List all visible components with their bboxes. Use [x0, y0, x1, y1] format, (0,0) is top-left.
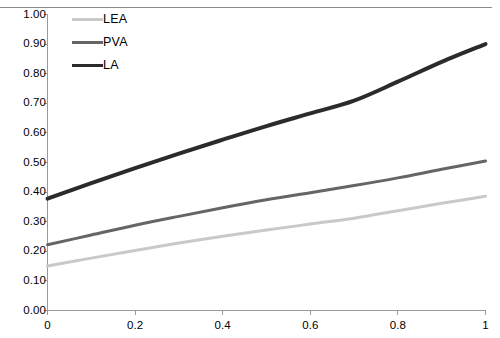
chart-figure: 0.000.100.200.300.400.500.600.700.800.90… — [0, 0, 500, 338]
legend-label-lea: LEA — [103, 13, 127, 26]
x-tick-label: 1 — [482, 320, 489, 332]
legend-label-la: LA — [103, 59, 119, 72]
chart-legend: LEA PVA LA — [72, 8, 212, 77]
legend-swatch-la — [72, 64, 103, 67]
legend-item-la: LA — [72, 54, 212, 77]
legend-swatch-pva — [72, 41, 103, 44]
legend-item-pva: PVA — [72, 31, 212, 54]
legend-swatch-lea — [72, 18, 103, 21]
x-tick-label: 0.6 — [302, 320, 318, 332]
x-tick-label: 0.2 — [127, 320, 143, 332]
x-tick-label: 0.4 — [215, 320, 231, 332]
legend-label-pva: PVA — [103, 36, 128, 49]
legend-item-lea: LEA — [72, 8, 212, 31]
x-tick-label: 0 — [44, 320, 51, 332]
x-tick-label: 0.8 — [390, 320, 406, 332]
